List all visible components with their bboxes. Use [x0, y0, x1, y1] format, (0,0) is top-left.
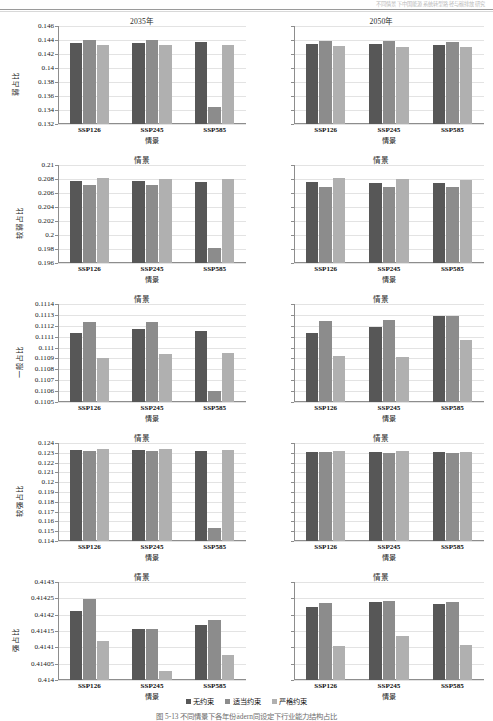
- y-tick-label: 0.121: [38, 468, 54, 476]
- x-tick-label: SSP585: [441, 265, 464, 273]
- x-tick-label: SSP126: [78, 265, 101, 273]
- panel-title: 2050年: [252, 15, 493, 26]
- y-tick-label: 0.1111: [35, 333, 54, 341]
- bar: [369, 183, 382, 264]
- y-tick-label: 0.14: [42, 64, 54, 72]
- x-tick-label: SSP126: [78, 404, 101, 412]
- y-tick-label: 0.41405: [31, 660, 54, 668]
- bar: [83, 40, 96, 124]
- plot-area: SSP126SSP245SSP585情景: [294, 304, 484, 402]
- bar: [369, 602, 382, 680]
- bar: [70, 181, 83, 263]
- bar: [222, 45, 235, 124]
- gridline: [58, 402, 246, 403]
- y-tick-label: 0.119: [38, 488, 54, 496]
- x-tick-label: SSP126: [314, 543, 337, 551]
- bar: [433, 452, 446, 541]
- bar: [83, 451, 96, 541]
- x-tick-label: SSP585: [203, 126, 226, 134]
- y-tick-label: 0.206: [38, 189, 54, 197]
- bar: [446, 602, 459, 680]
- y-axis-tick: [55, 680, 58, 681]
- bar: [460, 340, 473, 402]
- bar-group: SSP585: [421, 304, 484, 402]
- bar-group: SSP126: [58, 443, 121, 541]
- y-tick-label: 0.1114: [35, 300, 54, 308]
- legend-swatch: [186, 699, 191, 704]
- bar-groups: SSP126SSP245SSP585: [58, 443, 246, 541]
- y-tick-label: 0.414: [38, 676, 54, 684]
- bar-group: SSP126: [58, 582, 121, 680]
- bar-group: SSP585: [421, 165, 484, 263]
- bar: [159, 449, 172, 541]
- bar: [306, 44, 319, 124]
- plot-area: 0.1960.1980.20.2020.2040.2060.2080.21SSP…: [58, 165, 246, 263]
- bar: [369, 44, 382, 124]
- x-axis-title: 情景: [294, 413, 484, 423]
- bar-group: SSP245: [121, 165, 184, 263]
- bar: [460, 645, 473, 680]
- bar-groups: SSP126SSP245SSP585: [58, 582, 246, 680]
- bar-group: SSP585: [183, 582, 246, 680]
- bar: [333, 646, 346, 680]
- legend-label: 适当约束: [233, 696, 261, 706]
- x-tick-label: SSP245: [141, 265, 164, 273]
- bar-group: SSP245: [121, 26, 184, 124]
- y-tick-label: 0.12: [42, 478, 54, 486]
- legend-swatch: [272, 699, 277, 704]
- bar: [396, 179, 409, 263]
- bar-group: SSP245: [121, 582, 184, 680]
- chart-panel: 2035年弱占比0.1320.1340.1360.1380.140.1420.1…: [0, 14, 252, 153]
- bar-group: SSP585: [183, 304, 246, 402]
- x-tick-label: SSP245: [378, 126, 401, 134]
- y-tick-label: 0.146: [38, 22, 54, 30]
- bar: [195, 182, 208, 263]
- bar: [460, 47, 473, 124]
- bar: [383, 601, 396, 680]
- bar: [383, 187, 396, 263]
- y-axis-label: 一般占比: [13, 346, 24, 378]
- bar: [146, 451, 159, 541]
- y-tick-label: 0.4142: [34, 611, 54, 619]
- gridline: [294, 402, 484, 403]
- bar-groups: SSP126SSP245SSP585: [294, 165, 484, 263]
- y-axis-tick: [291, 402, 294, 403]
- x-axis-title: 情景: [58, 413, 246, 423]
- panel-title: 情景: [252, 432, 493, 443]
- bar-group: SSP245: [121, 304, 184, 402]
- chart-panel: 情景SSP126SSP245SSP585情景: [252, 431, 493, 570]
- x-tick-label: SSP126: [78, 543, 101, 551]
- bar: [369, 452, 382, 541]
- x-tick-label: SSP585: [441, 543, 464, 551]
- bar-group: SSP126: [58, 26, 121, 124]
- chart-panel: 情景一般占比0.11050.11060.11070.11080.11090.11…: [0, 292, 252, 431]
- y-axis-tick: [291, 263, 294, 264]
- y-tick-label: 0.134: [38, 106, 54, 114]
- y-tick-label: 0.1109: [35, 354, 54, 362]
- bar: [333, 451, 346, 541]
- bar: [146, 185, 159, 263]
- y-tick-label: 0.122: [38, 459, 54, 467]
- bar-group: SSP585: [421, 582, 484, 680]
- y-tick-label: 0.1106: [35, 387, 54, 395]
- panel-row: 情景一般占比0.11050.11060.11070.11080.11090.11…: [0, 292, 493, 431]
- bar: [396, 357, 409, 402]
- chart-panel: 情景SSP126SSP245SSP585情景: [252, 153, 493, 292]
- x-tick-label: SSP585: [203, 265, 226, 273]
- x-tick-label: SSP245: [378, 543, 401, 551]
- bar: [146, 629, 159, 680]
- y-tick-label: 0.124: [38, 439, 54, 447]
- bar-group: SSP245: [121, 443, 184, 541]
- bar: [383, 41, 396, 124]
- bar: [396, 636, 409, 680]
- x-tick-label: SSP585: [203, 682, 226, 690]
- y-tick-label: 0.111: [39, 344, 54, 352]
- bar: [306, 607, 319, 680]
- bar: [446, 42, 459, 124]
- bar-groups: SSP126SSP245SSP585: [294, 26, 484, 124]
- bar: [83, 322, 96, 402]
- y-tick-label: 0.1105: [35, 398, 54, 406]
- bar: [319, 321, 332, 402]
- bar: [132, 181, 145, 263]
- y-tick-label: 0.208: [38, 175, 54, 183]
